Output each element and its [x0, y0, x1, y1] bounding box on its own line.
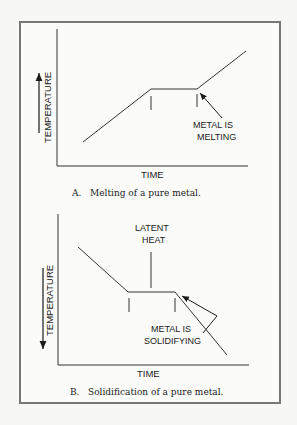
- panel-b-y-label-group: TEMPERATURE: [44, 265, 55, 336]
- panel-a-melting: TEMPERATURE METAL IS MELTING TIME A. Mel…: [39, 29, 248, 198]
- panel-a-y-label-group: TEMPERATURE: [42, 72, 53, 143]
- diagram-canvas: TEMPERATURE METAL IS MELTING TIME A. Mel…: [0, 0, 297, 425]
- panel-b-annotation-2: SOLIDIFYING: [144, 336, 201, 346]
- panel-b-annotation-1: METAL IS: [151, 324, 191, 334]
- panel-a-caption: Melting of a pure metal.: [90, 188, 201, 198]
- panel-b-caption-letter: B.: [70, 387, 80, 397]
- panel-a-x-label: TIME: [141, 169, 164, 180]
- panel-b-solidification: TEMPERATURE LATENT HEAT METAL IS SOLIDIF…: [43, 214, 249, 397]
- panel-a-y-label: TEMPERATURE: [42, 72, 53, 143]
- panel-b-caption: Solidification of a pure metal.: [88, 387, 224, 397]
- panel-b-latent-2: HEAT: [142, 235, 166, 245]
- panel-b-latent-1: LATENT: [135, 223, 169, 233]
- panel-b-y-label: TEMPERATURE: [44, 265, 55, 336]
- panel-a-annotation-1: METAL IS: [193, 120, 233, 130]
- panel-a-caption-letter: A.: [71, 188, 81, 198]
- panel-a-annotation-2: MELTING: [197, 132, 236, 142]
- panel-b-x-label: TIME: [137, 368, 160, 379]
- panel-a-pointer-arrow-icon: [200, 93, 222, 118]
